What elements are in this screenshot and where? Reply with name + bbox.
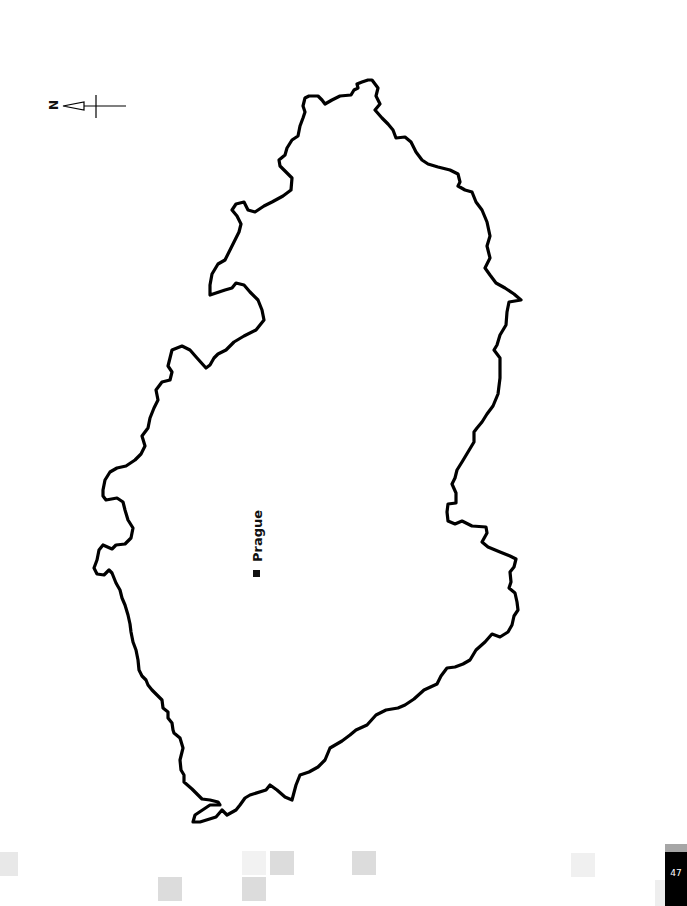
decor-square <box>0 852 18 876</box>
decor-square <box>270 851 294 875</box>
country-boundary <box>94 80 521 822</box>
country-outline-map <box>0 0 687 906</box>
compass-north-label: N <box>48 100 60 110</box>
decor-square <box>571 853 595 877</box>
decor-square <box>655 880 665 906</box>
decor-square <box>352 851 376 875</box>
city-label-prague: Prague <box>250 510 265 562</box>
decor-square <box>242 851 266 875</box>
map-page: N Prague 47 <box>0 0 687 906</box>
decor-square <box>242 877 266 901</box>
compass-arrow-icon <box>63 95 126 118</box>
page-number: 47 <box>670 868 681 878</box>
page-tab-accent <box>665 844 687 852</box>
city-marker-prague <box>253 570 260 577</box>
decor-square <box>158 877 182 901</box>
page-number-tab: 47 <box>665 852 687 906</box>
